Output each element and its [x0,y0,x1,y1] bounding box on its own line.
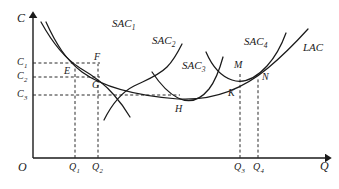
sac1-sub: 1 [132,23,136,32]
tick-label-c1: C1 [17,57,27,67]
point-label-m: M [234,60,242,70]
tick-c2-sub: 2 [24,76,27,83]
tick-c3-sub: 3 [24,94,27,101]
tick-c3-base: C [17,88,24,99]
sac4-base: SAC [244,35,264,47]
tick-c2-base: C [17,70,24,81]
tick-q2-sub: 2 [100,167,103,174]
point-label-g: G [92,80,99,90]
curve-label-lac: LAC [303,42,323,53]
sac3-sub: 3 [202,65,206,74]
point-label-k: K [228,88,235,98]
tick-q2-base: Q [92,161,99,172]
point-label-f: F [94,52,100,62]
tick-label-q1: Q1 [69,162,80,172]
sac1-base: SAC [112,17,132,29]
quantity-axis-label: Q [320,160,329,172]
tick-c1-sub: 1 [24,62,27,69]
lac-curve [46,22,308,99]
tick-label-c3: C3 [17,89,27,99]
sac4-sub: 4 [264,41,268,50]
curve-label-sac1: SAC1 [112,18,135,29]
tick-label-q3: Q3 [234,162,245,172]
point-label-h: H [175,104,182,114]
curve-label-sac3: SAC3 [182,60,205,71]
lac-base: LAC [303,41,323,53]
curve-label-sac4: SAC4 [244,36,267,47]
tick-q4-sub: 4 [261,167,264,174]
point-label-e: E [64,66,70,76]
sac2-sub: 2 [172,40,176,49]
tick-q1-base: Q [69,161,76,172]
cost-curve-figure: C Q O C1 C2 C3 Q1 Q2 Q3 Q4 SAC1 SAC2 SAC… [0,0,339,189]
tick-label-q4: Q4 [253,162,264,172]
tick-label-c2: C2 [17,71,27,81]
tick-q1-sub: 1 [77,167,80,174]
axes-group [33,16,327,158]
tick-c1-base: C [17,56,24,67]
sac2-base: SAC [152,34,172,46]
origin-label: O [18,161,27,173]
sac1-curve [41,22,130,117]
tick-q3-base: Q [234,161,241,172]
guide-lines-group [33,63,258,158]
figure-canvas [0,0,339,189]
sac3-base: SAC [182,59,202,71]
tick-q3-sub: 3 [242,167,245,174]
point-label-n: N [262,72,269,82]
tick-label-q2: Q2 [92,162,103,172]
sac2-curve [104,44,182,120]
curve-label-sac2: SAC2 [152,35,175,46]
cost-axis-label: C [17,12,25,24]
tick-q4-base: Q [253,161,260,172]
